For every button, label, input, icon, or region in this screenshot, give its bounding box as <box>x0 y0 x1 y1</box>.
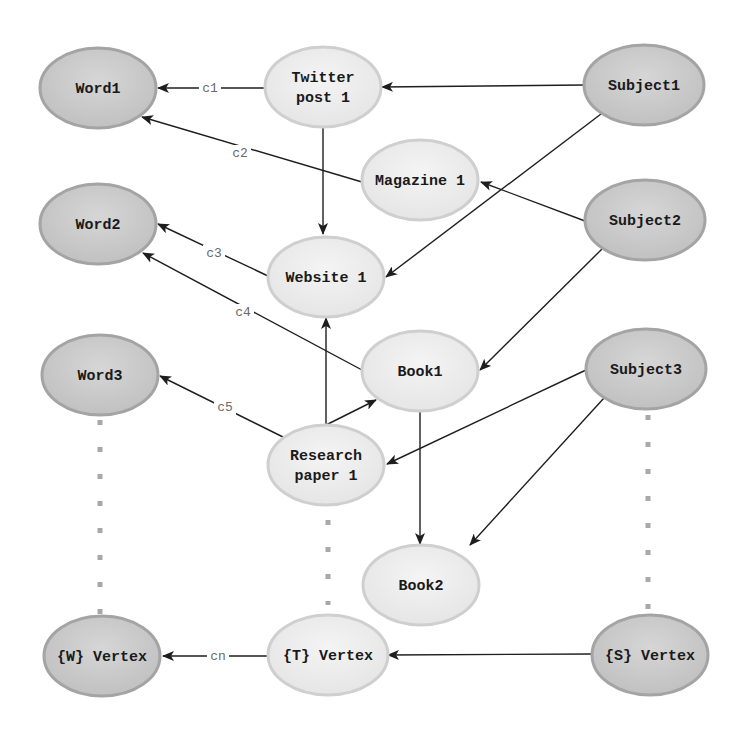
edge-label: c5 <box>217 400 233 415</box>
node-label: {S} Vertex <box>605 648 695 665</box>
node-subject1: Subject1 <box>584 45 704 125</box>
node-label: Subject1 <box>608 78 680 95</box>
node-label: Book2 <box>398 578 443 595</box>
edge-label: c3 <box>206 246 222 261</box>
node-label: Subject3 <box>610 362 682 379</box>
edge-label: c2 <box>232 146 248 161</box>
edge-label: c1 <box>202 81 218 96</box>
edge-arrow <box>470 398 604 545</box>
word-text-subject-graph: c1c2c3c4c5cn Word1Word2Word3{W} VertexTw… <box>0 0 747 729</box>
node-t-vertex: {T} Vertex <box>268 615 388 695</box>
node-word3: Word3 <box>42 335 158 415</box>
node-shape <box>265 47 381 127</box>
node-s-vertex: {S} Vertex <box>592 615 708 695</box>
node-subject3: Subject3 <box>586 329 706 409</box>
node-label: Research <box>290 448 362 465</box>
node-label: Subject2 <box>609 213 681 230</box>
node-subject2: Subject2 <box>585 180 705 260</box>
node-word2: Word2 <box>40 184 156 264</box>
edge-subject2-to-magazine_1 <box>481 182 585 221</box>
edge-research_paper_1-to-book1 <box>326 400 376 425</box>
node-label: {T} Vertex <box>283 648 373 665</box>
node-magazine-1: Magazine 1 <box>362 140 478 220</box>
edge-subject1-to-twitter_post_1 <box>382 85 584 87</box>
edge-twitter_post_1-to-word1: c1 <box>158 80 265 96</box>
node-label: Word3 <box>77 368 122 385</box>
node-research-paper-1: Researchpaper 1 <box>268 425 384 505</box>
edge-t_vertex-to-w_vertex: cn <box>163 648 268 664</box>
node-label: Twitter <box>291 70 354 87</box>
node-word1: Word1 <box>40 48 156 128</box>
node-shape <box>268 425 384 505</box>
node-book1: Book1 <box>362 331 478 411</box>
node-book2: Book2 <box>363 545 479 625</box>
edge-arrow <box>481 182 585 221</box>
edge-research_paper_1-to-word3: c5 <box>160 376 285 438</box>
edge-s_vertex-to-t_vertex <box>388 654 591 655</box>
node-label: {W} Vertex <box>57 649 147 666</box>
node-website-1: Website 1 <box>268 237 384 317</box>
edge-label: c4 <box>235 305 251 320</box>
edge-subject3-to-book2 <box>470 398 604 545</box>
edge-arrow <box>388 654 591 655</box>
node-twitter-post-1: Twitterpost 1 <box>265 47 381 127</box>
node-label: Website 1 <box>285 270 366 287</box>
edge-arrow <box>382 85 584 87</box>
node-label: Word2 <box>75 217 120 234</box>
node-label: Magazine 1 <box>375 173 465 190</box>
node-label: paper 1 <box>294 468 357 485</box>
node-label: post 1 <box>296 90 350 107</box>
edge-subject2-to-book1 <box>480 249 602 370</box>
node-w-vertex: {W} Vertex <box>44 616 160 696</box>
edge-label: cn <box>210 649 226 664</box>
node-label: Word1 <box>75 81 120 98</box>
edge-website_1-to-word2: c3 <box>158 224 268 276</box>
node-label: Book1 <box>397 364 442 381</box>
edge-arrow <box>326 400 376 425</box>
nodes: Word1Word2Word3{W} VertexTwitterpost 1Ma… <box>40 45 708 696</box>
edge-arrow <box>480 249 602 370</box>
